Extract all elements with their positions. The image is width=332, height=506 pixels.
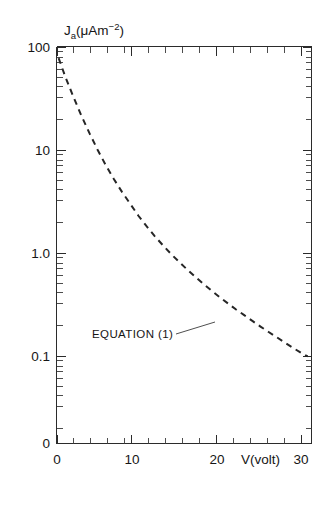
chart-plot: 100 10 1.0 0.1 0 0 10 20 30 V(volt) Ja(μ… xyxy=(0,0,332,506)
y-axis-title-symbol: J xyxy=(64,23,71,38)
annotation-leader-line xyxy=(176,322,215,334)
y-axis-title-unit-close: ) xyxy=(119,23,124,38)
x-tick-label-30: 30 xyxy=(293,452,308,467)
y-axis-title: Ja(μAm−2) xyxy=(64,21,124,41)
x-axis-ticks xyxy=(57,435,301,444)
data-series-equation-1 xyxy=(59,58,308,356)
y-axis-major-ticks xyxy=(57,47,66,443)
y-tick-label-0_1: 0.1 xyxy=(31,349,50,364)
y-axis-origin-label: 0 xyxy=(42,436,50,451)
x-tick-label-20: 20 xyxy=(209,452,224,467)
figure-container: 100 10 1.0 0.1 0 0 10 20 30 V(volt) Ja(μ… xyxy=(0,0,332,506)
plot-frame xyxy=(57,47,312,444)
y-axis-minor-ticks xyxy=(57,52,63,428)
y-axis-right-ticks xyxy=(303,47,312,428)
annotation-equation-1: EQUATION (1) xyxy=(92,328,173,340)
y-axis-tick-labels: 100 10 1.0 0.1 0 xyxy=(27,40,50,451)
x-tick-label-0: 0 xyxy=(53,452,61,467)
x-tick-label-10: 10 xyxy=(124,452,139,467)
y-axis-title-unit-exponent: −2 xyxy=(109,21,120,32)
svg-text:Ja(μAm−2): Ja(μAm−2) xyxy=(64,21,124,41)
y-tick-label-10: 10 xyxy=(35,143,50,158)
x-axis-title: V(volt) xyxy=(241,452,280,467)
y-axis-title-unit-open: (μAm xyxy=(76,23,109,38)
x-axis-top-ticks xyxy=(57,47,301,56)
y-tick-label-100: 100 xyxy=(27,40,50,55)
y-tick-label-1: 1.0 xyxy=(31,246,50,261)
